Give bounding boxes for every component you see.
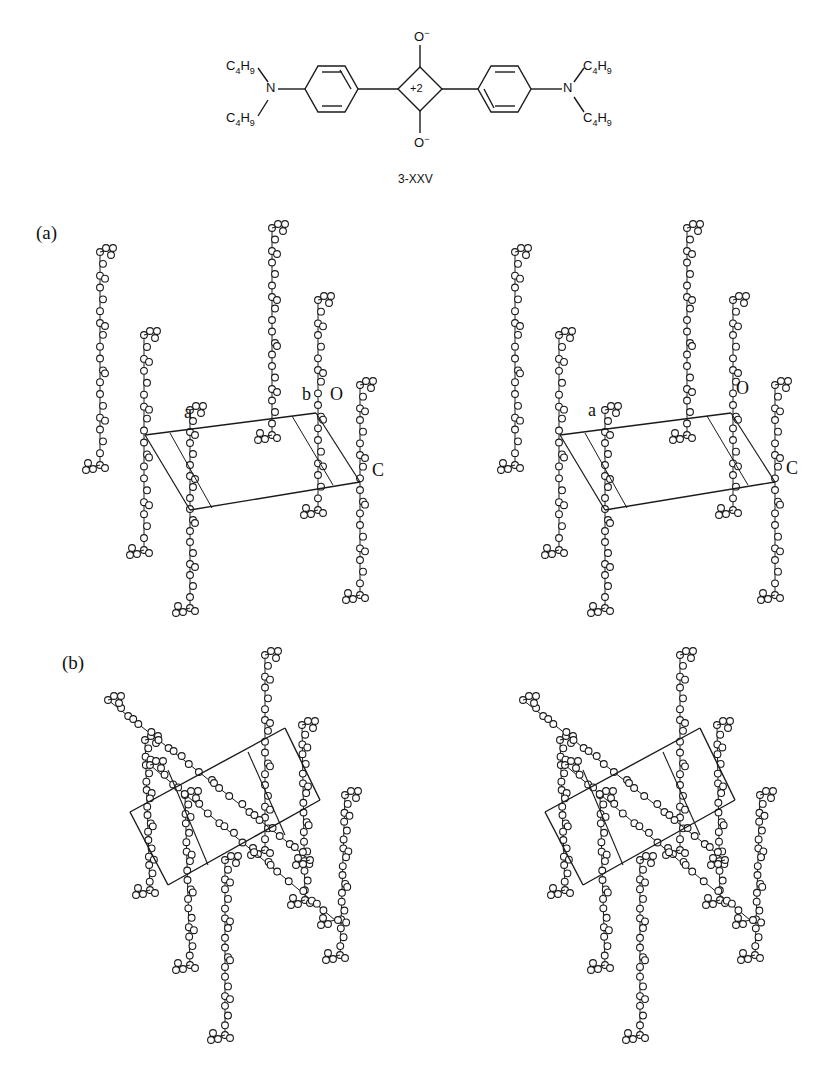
axis-label-a-right: a xyxy=(588,400,596,421)
axis-label-c-left: C xyxy=(372,460,384,481)
axis-label-b-left: b xyxy=(302,384,311,405)
axis-label-c-right: C xyxy=(786,458,798,479)
axis-label-origin-left: O xyxy=(330,384,343,405)
axis-label-a-left: a xyxy=(184,402,192,423)
crystal-packing-stereo-views xyxy=(0,0,831,1067)
axis-label-origin-right: O xyxy=(736,378,749,399)
